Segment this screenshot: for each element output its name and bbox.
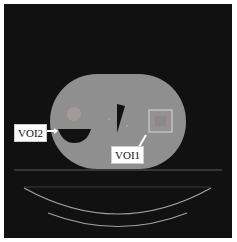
- voi1-inner: [155, 116, 166, 126]
- voi2-label: VOI2: [14, 124, 47, 142]
- insert-circle: [67, 107, 81, 121]
- table-curve-lower: [48, 213, 187, 227]
- voi1-label: VOI1: [111, 146, 144, 164]
- dot-marker: [126, 125, 128, 127]
- dot-marker: [108, 118, 110, 120]
- ct-phantom-graphic: [0, 0, 237, 242]
- table-curve-upper: [24, 188, 211, 214]
